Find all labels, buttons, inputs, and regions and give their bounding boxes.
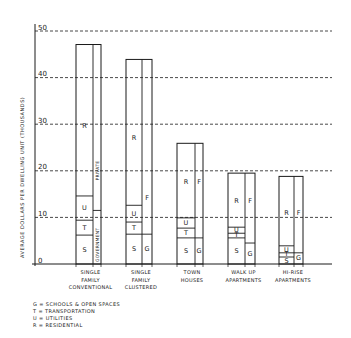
y-axis-label: AVERAGE DOLLARS PER DWELLING UNIT (THOUS… <box>19 97 25 258</box>
legend: G = SCHOOLS & OPEN SPACEST = TRANSPORTAT… <box>32 301 120 328</box>
segment-label-r: R <box>234 197 239 205</box>
funding-label-f: F <box>248 197 252 205</box>
segment-label-u: U <box>132 210 137 218</box>
funding-label-g: G <box>196 247 201 255</box>
funding-label-government: GOVERNMENT <box>95 228 100 262</box>
bar-outline <box>279 176 303 264</box>
category-label: WALK UPAPARTMENTS <box>225 269 261 283</box>
bar-group: STURGF <box>177 143 203 264</box>
bar-group: STURGF <box>228 173 255 264</box>
y-tick-labels: 01020304050 <box>38 24 47 265</box>
y-tick-label: 30 <box>38 117 47 125</box>
segment-label-t: T <box>82 224 87 232</box>
bar-group: STURGF <box>279 176 303 264</box>
bar-outline <box>177 143 203 264</box>
segment-label-s: S <box>82 246 86 254</box>
category-labels: SINGLEFAMILYCONVENTIONALSINGLEFAMILYCLUS… <box>69 269 311 290</box>
funding-label-f: F <box>297 209 301 217</box>
segment-label-u: U <box>284 246 289 254</box>
y-tick-label: 40 <box>38 70 47 78</box>
legend-item: T = TRANSPORTATION <box>32 308 95 314</box>
category-label: SINGLEFAMILYCONVENTIONAL <box>69 269 113 290</box>
y-tick-label: 0 <box>38 257 42 265</box>
y-tick-label: 10 <box>38 210 47 218</box>
funding-label-private: PRIVATE <box>95 161 100 181</box>
bar-group: STURGF <box>126 59 152 264</box>
segment-label-s: S <box>132 245 136 253</box>
segment-label-s: S <box>234 247 238 255</box>
bar-outline <box>126 59 152 264</box>
segment-label-r: R <box>284 209 289 217</box>
funding-label-f: F <box>197 178 201 186</box>
segment-label-s: S <box>184 247 188 255</box>
y-axis-title: AVERAGE DOLLARS PER DWELLING UNIT (THOUS… <box>19 97 25 258</box>
y-tick-label: 20 <box>38 163 47 171</box>
category-label: TOWNHOUSES <box>181 269 204 283</box>
legend-item: U = UTILITIES <box>33 315 73 321</box>
segment-label-u: U <box>82 204 87 212</box>
category-label: HI-RISEAPARTMENTS <box>275 269 311 283</box>
legend-item: R = RESIDENTIAL <box>33 322 83 328</box>
segment-label-r: R <box>82 122 87 130</box>
category-label: SINGLEFAMILYCLUSTERED <box>125 269 157 290</box>
segment-label-r: R <box>132 134 137 142</box>
chart: 01020304050 AVERAGE DOLLARS PER DWELLING… <box>0 0 351 338</box>
segment-label-t: T <box>131 224 136 232</box>
funding-label-g: G <box>144 245 149 253</box>
gridlines <box>35 31 332 217</box>
axes <box>32 24 332 267</box>
segment-label-t: T <box>183 229 188 237</box>
legend-item: G = SCHOOLS & OPEN SPACES <box>33 301 120 307</box>
y-tick-label: 50 <box>38 24 47 32</box>
funding-label-f: F <box>145 194 149 202</box>
segment-label-u: U <box>234 226 239 234</box>
segment-label-r: R <box>184 178 189 186</box>
segment-label-u: U <box>184 219 189 227</box>
funding-label-g: G <box>296 254 301 262</box>
funding-label-g: G <box>247 250 252 258</box>
